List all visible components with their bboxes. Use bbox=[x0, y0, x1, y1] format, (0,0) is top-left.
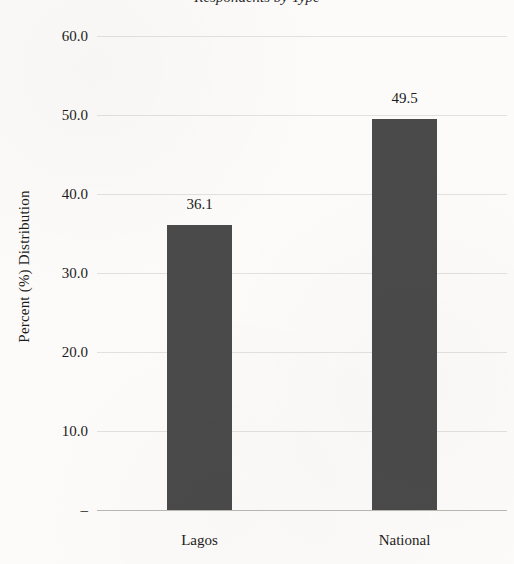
x-axis-line bbox=[97, 510, 507, 511]
x-axis-tick-label: Lagos bbox=[130, 533, 270, 548]
y-axis-tick-label: 20.0 bbox=[34, 345, 88, 360]
y-axis-title: Percent (%) Distribution bbox=[16, 147, 33, 387]
bar-value-label: 49.5 bbox=[345, 91, 465, 106]
gridline bbox=[97, 431, 507, 432]
gridline bbox=[97, 352, 507, 353]
gridline bbox=[97, 194, 507, 195]
chart-figure: Respondents by Type Percent (%) Distribu… bbox=[0, 0, 514, 564]
y-axis-tick-label: 50.0 bbox=[34, 108, 88, 123]
gridline bbox=[97, 36, 507, 37]
chart-title-cropped: Respondents by Type bbox=[0, 0, 514, 11]
y-axis-tick-label: 60.0 bbox=[34, 29, 88, 44]
bar-national[interactable] bbox=[372, 119, 437, 510]
chart-title-text: Respondents by Type bbox=[0, 0, 514, 6]
y-axis-tick-label: 10.0 bbox=[34, 424, 88, 439]
y-axis-tick-label: 30.0 bbox=[34, 266, 88, 281]
gridline bbox=[97, 115, 507, 116]
bar-lagos[interactable] bbox=[167, 225, 232, 510]
y-axis-tick-label: 40.0 bbox=[34, 187, 88, 202]
bar-value-label: 36.1 bbox=[140, 197, 260, 212]
y-axis-tick-label: – bbox=[34, 503, 88, 518]
x-axis-tick-label: National bbox=[335, 533, 475, 548]
plot-area bbox=[97, 36, 507, 510]
gridline bbox=[97, 273, 507, 274]
